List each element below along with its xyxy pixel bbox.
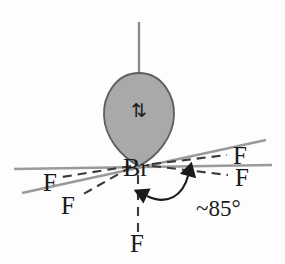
atom-label-f-left-upper: F (43, 169, 57, 196)
molecule-svg: Br F F F F F ~85° ⇅ (0, 0, 285, 264)
atom-label-f-left-lower: F (61, 192, 75, 219)
angle-arc-arrow (147, 176, 188, 200)
angle-value-label: ~85° (196, 196, 241, 221)
atom-label-f-right-lower: F (235, 164, 249, 191)
paired-electron-arrows-icon: ⇅ (131, 99, 147, 121)
diagram-canvas: Br F F F F F ~85° ⇅ (0, 0, 285, 264)
atom-label-f-axial-bottom: F (130, 230, 144, 257)
atom-label-br: Br (123, 153, 149, 182)
